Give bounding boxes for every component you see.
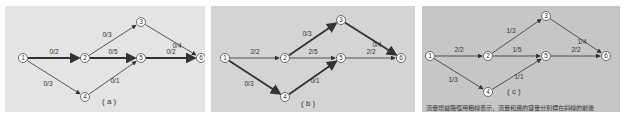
node-label-6: 6 (399, 54, 403, 61)
panel-label-c: ( c ) (507, 87, 521, 96)
edge-label-2-5: 2/5 (308, 48, 317, 55)
edge-label-1-2: 2/2 (454, 46, 463, 53)
node-label-6: 6 (604, 52, 608, 59)
edge-label-1-4: 0/3 (43, 80, 52, 87)
node-label-5: 5 (544, 52, 548, 59)
node-label-2: 2 (486, 52, 490, 59)
node-label-4: 4 (283, 93, 287, 100)
edge-label-5-6: 2/2 (366, 48, 375, 55)
edge-label-2-3: 0/3 (102, 31, 111, 38)
edge-label-1-4: 1/3 (448, 76, 457, 83)
edge-label-1-4: 0/3 (244, 80, 253, 87)
flow-network-c: 2/21/31/31/51/11/42/2123456 (422, 6, 620, 112)
node-label-1: 1 (21, 54, 25, 61)
node-label-3: 3 (139, 18, 143, 25)
edge-1-4 (434, 59, 483, 89)
panel-a: 0/20/30/30/50/10/40/2123456 ( a ) (5, 6, 205, 112)
panel-label-b: ( b ) (301, 99, 315, 108)
node-label-1: 1 (223, 54, 227, 61)
node-label-5: 5 (339, 54, 343, 61)
node-label-4: 4 (486, 88, 490, 95)
edge-label-4-5: 1/1 (514, 73, 523, 80)
node-label-2: 2 (283, 54, 287, 61)
figure-caption: 流量增益路徑用粗線表示，流量和邊的容量分別標在斜線的前後 (426, 103, 594, 112)
edge-label-4-5: 0/1 (110, 77, 119, 84)
edge-label-3-6: 1/4 (577, 38, 586, 45)
edge-label-2-5: 1/5 (512, 46, 521, 53)
edge-label-5-6: 2/2 (571, 46, 580, 53)
edge-label-4-5: 0/1 (310, 77, 319, 84)
panel-label-a: ( a ) (102, 97, 116, 106)
edge-label-2-3: 0/3 (302, 30, 311, 37)
node-label-2: 2 (83, 54, 87, 61)
edge-label-5-6: 0/2 (166, 48, 175, 55)
edge-label-1-2: 0/2 (49, 48, 58, 55)
node-label-5: 5 (139, 54, 143, 61)
edge-label-2-5: 0/5 (108, 48, 117, 55)
edge-1-4 (229, 61, 280, 94)
node-label-3: 3 (544, 12, 548, 19)
node-label-1: 1 (428, 52, 432, 59)
edge-label-2-3: 1/3 (506, 27, 515, 34)
node-label-3: 3 (339, 16, 343, 23)
edge-1-4 (27, 61, 80, 94)
edge-label-3-6: 0/4 (372, 41, 381, 48)
edge-label-1-2: 2/2 (250, 48, 259, 55)
panel-b: 2/20/30/32/50/10/42/2123456 ( b ) (211, 6, 415, 112)
node-label-6: 6 (199, 54, 203, 61)
node-label-4: 4 (83, 93, 87, 100)
flow-network-b: 2/20/30/32/50/10/42/2123456 (211, 6, 415, 112)
panel-c: 2/21/31/31/51/11/42/2123456 ( c ) 流量增益路徑… (422, 6, 620, 112)
